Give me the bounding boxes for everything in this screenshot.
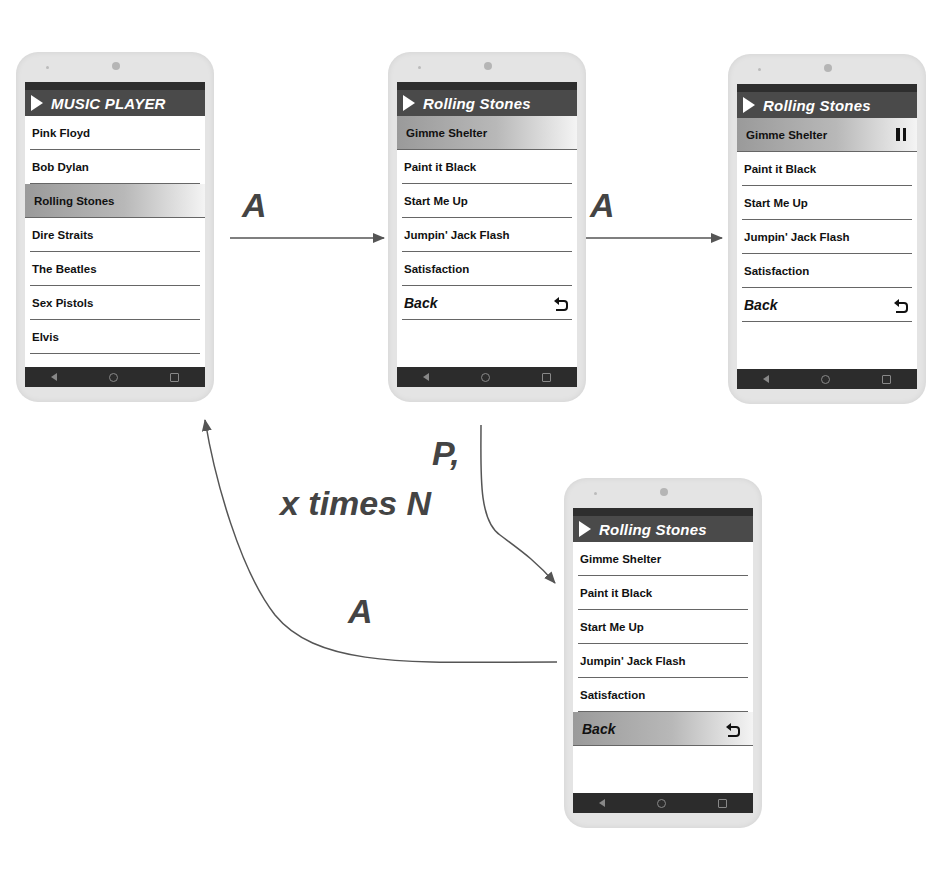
phone-song-playing: Rolling Stones Gimme Shelter Paint it Bl… [728,54,926,404]
screen: Rolling Stones Gimme Shelter Paint it Bl… [737,84,917,389]
item-label: Gimme Shelter [406,127,487,139]
status-bar [573,508,753,516]
item-label: Satisfaction [580,689,645,701]
nav-bar [573,793,753,813]
back-icon [894,298,908,312]
nav-home-icon[interactable] [821,375,830,384]
list-item[interactable]: Jumpin' Jack Flash [402,218,572,252]
list-item[interactable]: Paint it Black [742,152,912,186]
speaker-dot [758,68,761,71]
list-item[interactable]: Paint it Black [402,150,572,184]
pause-icon[interactable] [896,128,906,141]
nav-recent-icon[interactable] [542,373,551,382]
item-label: Start Me Up [580,621,644,633]
list-item[interactable]: Gimme Shelter [578,542,748,576]
title-bar: MUSIC PLAYER [25,90,205,116]
play-icon [579,521,591,537]
list-item[interactable]: Satisfaction [578,678,748,712]
nav-back-icon[interactable] [423,373,429,381]
item-label: Start Me Up [404,195,468,207]
item-label: Satisfaction [404,263,469,275]
list-item[interactable]: Paint it Black [578,576,748,610]
play-icon [31,95,43,111]
nav-bar [25,367,205,387]
nav-back-icon[interactable] [51,373,57,381]
transition-label-a3: A [348,592,373,631]
list-item[interactable]: Start Me Up [742,186,912,220]
camera-dot [484,62,492,70]
back-item-selected[interactable]: Back [573,712,753,746]
play-icon [403,95,415,111]
list-item[interactable]: Satisfaction [742,254,912,288]
play-icon [743,97,755,113]
list-item[interactable]: Start Me Up [402,184,572,218]
back-icon [554,296,568,310]
nav-recent-icon[interactable] [170,373,179,382]
app-title: Rolling Stones [599,521,707,538]
list-item[interactable]: Dire Straits [30,218,200,252]
list-item-selected[interactable]: Rolling Stones [25,184,205,218]
item-label: Gimme Shelter [580,553,661,565]
title-bar: Rolling Stones [737,92,917,118]
nav-bar [737,369,917,389]
list-item[interactable]: Jumpin' Jack Flash [578,644,748,678]
item-label: Elvis [32,331,59,343]
title-bar: Rolling Stones [397,90,577,116]
item-label: Gimme Shelter [746,129,827,141]
screen: MUSIC PLAYER Pink Floyd Bob Dylan Rollin… [25,82,205,387]
screen: Rolling Stones Gimme Shelter Paint it Bl… [397,82,577,387]
transition-label-a2: A [590,186,615,225]
list-item[interactable]: Start Me Up [578,610,748,644]
song-list: Gimme Shelter Paint it Black Start Me Up… [573,542,753,746]
screen: Rolling Stones Gimme Shelter Paint it Bl… [573,508,753,813]
back-item[interactable]: Back [402,286,572,320]
camera-dot [660,488,668,496]
list-item[interactable]: The Beatles [30,252,200,286]
speaker-dot [46,66,49,69]
app-title: MUSIC PLAYER [51,95,166,112]
list-item[interactable]: Pink Floyd [30,116,200,150]
list-item-selected[interactable]: Gimme Shelter [397,116,577,150]
item-label: Back [404,295,437,311]
list-item[interactable]: Bob Dylan [30,150,200,184]
item-label: Paint it Black [580,587,652,599]
list-item[interactable]: Elvis [30,320,200,354]
item-label: Jumpin' Jack Flash [404,229,510,241]
camera-dot [824,64,832,72]
item-label: Pink Floyd [32,127,90,139]
item-label: Back [582,721,615,737]
item-label: Sex Pistols [32,297,93,309]
status-bar [397,82,577,90]
speaker-dot [418,66,421,69]
phone-artist-list: MUSIC PLAYER Pink Floyd Bob Dylan Rollin… [16,52,214,402]
nav-home-icon[interactable] [657,799,666,808]
item-label: Paint it Black [744,163,816,175]
item-label: Bob Dylan [32,161,89,173]
artist-list: Pink Floyd Bob Dylan Rolling Stones Dire… [25,116,205,354]
item-label: Rolling Stones [34,195,115,207]
status-bar [25,82,205,90]
song-list: Gimme Shelter Paint it Black Start Me Up… [397,116,577,320]
transition-label-p: P, [432,434,460,473]
song-list: Gimme Shelter Paint it Black Start Me Up… [737,118,917,322]
list-item-playing[interactable]: Gimme Shelter [737,118,917,152]
item-label: Dire Straits [32,229,93,241]
list-item[interactable]: Jumpin' Jack Flash [742,220,912,254]
back-item[interactable]: Back [742,288,912,322]
nav-back-icon[interactable] [599,799,605,807]
nav-bar [397,367,577,387]
item-label: Jumpin' Jack Flash [744,231,850,243]
app-title: Rolling Stones [423,95,531,112]
item-label: Back [744,297,777,313]
list-item[interactable]: Satisfaction [402,252,572,286]
arrow-songs-to-back [481,425,555,583]
arrow-back-to-artists [205,420,557,662]
nav-home-icon[interactable] [109,373,118,382]
item-label: The Beatles [32,263,97,275]
nav-back-icon[interactable] [763,375,769,383]
nav-recent-icon[interactable] [882,375,891,384]
transition-label-x-times-n: x times N [280,484,431,523]
nav-home-icon[interactable] [481,373,490,382]
nav-recent-icon[interactable] [718,799,727,808]
list-item[interactable]: Sex Pistols [30,286,200,320]
